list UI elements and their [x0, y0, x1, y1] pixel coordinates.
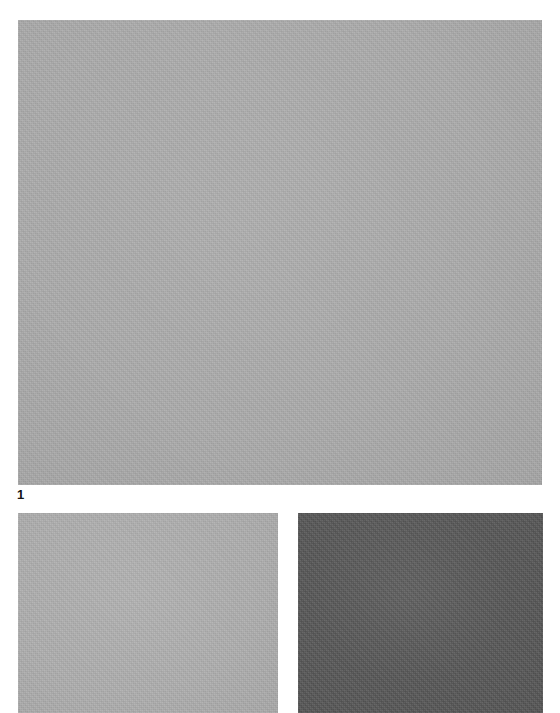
gray-swatch-light	[18, 513, 278, 713]
figure-plate: 1	[0, 0, 560, 713]
gray-swatch-dark	[298, 513, 543, 713]
gray-swatch-large	[18, 20, 542, 485]
figure-number-label: 1	[17, 487, 24, 502]
